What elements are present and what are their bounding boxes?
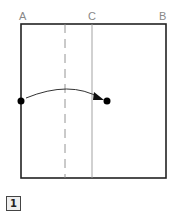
label-c: C [88, 11, 96, 22]
fold-arrow [26, 89, 100, 98]
label-b: B [159, 11, 166, 22]
paper-square [21, 24, 166, 178]
step-number-badge: 1 [6, 196, 21, 211]
start-dot [18, 98, 25, 105]
label-a: A [19, 11, 26, 22]
fold-diagram [0, 0, 177, 218]
arrowhead-icon [93, 92, 104, 100]
end-dot [104, 98, 111, 105]
